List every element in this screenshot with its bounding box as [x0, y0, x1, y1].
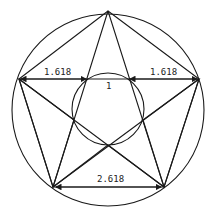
- spoke: [143, 79, 199, 120]
- right-segment-label: 1.618: [150, 67, 177, 77]
- spoke: [19, 79, 53, 187]
- center-segment-label: 1: [106, 81, 111, 91]
- spoke: [143, 120, 164, 187]
- spoke: [53, 120, 74, 187]
- spoke: [19, 79, 74, 120]
- spoke: [164, 79, 199, 187]
- pentagram-diagram: 1.618 1.618 1 2.618: [0, 0, 210, 222]
- left-segment-label: 1.618: [44, 67, 71, 77]
- bottom-segment-label: 2.618: [97, 174, 124, 184]
